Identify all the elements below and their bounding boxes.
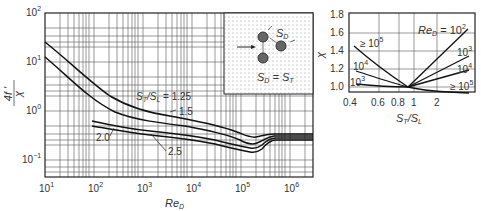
svg-text:2: 2	[434, 97, 440, 108]
svg-text:104: 104	[353, 59, 368, 72]
svg-text:102: 102	[88, 181, 103, 194]
label-1.25: ST/SL = 1.25	[136, 91, 192, 103]
svg-text:χ: χ	[12, 90, 24, 98]
svg-text:101: 101	[39, 181, 54, 194]
left-y-ticks: 102 101 100 10−1	[22, 5, 41, 165]
svg-text:102: 102	[26, 5, 41, 18]
right-chart: ReD = 102 103 104 ≥ 105 ≥ 105 104 103 1.…	[314, 9, 475, 125]
svg-text:103: 103	[350, 75, 365, 88]
right-y-ticks: 1.8 1.6 1.4 1.2 1.0	[330, 9, 344, 92]
svg-text:≥ 105: ≥ 105	[450, 79, 473, 92]
svg-text:≥ 105: ≥ 105	[360, 36, 383, 49]
svg-text:101: 101	[26, 54, 41, 67]
svg-text:10−1: 10−1	[22, 152, 41, 165]
tube-bank-inset: SD SD = ST	[224, 13, 313, 94]
svg-text:1.2: 1.2	[330, 63, 344, 74]
svg-text:105: 105	[235, 181, 250, 194]
svg-text:103: 103	[457, 45, 472, 58]
svg-text:0.4: 0.4	[343, 97, 357, 108]
label-2.5: 2.5	[168, 146, 182, 157]
svg-text:1: 1	[411, 97, 417, 108]
svg-text:103: 103	[137, 181, 152, 194]
svg-text:106: 106	[284, 181, 299, 194]
svg-text:1.0: 1.0	[330, 81, 344, 92]
tube-icon	[258, 53, 268, 63]
svg-text:100: 100	[26, 103, 41, 116]
svg-text:ReD = 102: ReD = 102	[418, 23, 466, 37]
right-x-ticks: 0.4 0.6 0.8 1 2	[343, 97, 440, 108]
svg-text:1.8: 1.8	[330, 9, 344, 20]
tube-icon	[258, 32, 268, 42]
label-1.5: 1.5	[179, 106, 193, 117]
figure: SD SD = ST ST/SL = 1.25 1.5 2.0 2.5 102 …	[0, 0, 481, 211]
right-y-label: χ	[314, 51, 326, 59]
svg-text:SD = ST: SD = ST	[257, 71, 294, 84]
right-x-label: ST/SL	[396, 112, 422, 125]
svg-text:1.6: 1.6	[330, 27, 344, 38]
svg-text:104: 104	[457, 62, 472, 75]
left-y-label: 4f ' χ	[2, 80, 24, 106]
svg-text:0.8: 0.8	[391, 97, 405, 108]
left-chart: SD SD = ST ST/SL = 1.25 1.5 2.0 2.5 102 …	[2, 5, 313, 210]
tube-icon	[276, 41, 286, 51]
svg-text:1.4: 1.4	[330, 45, 344, 56]
left-x-ticks: 101 102 103 104 105 106	[39, 181, 299, 194]
left-x-label: ReD	[165, 197, 184, 210]
label-2.0: 2.0	[96, 132, 110, 143]
svg-text:104: 104	[186, 181, 201, 194]
svg-text:0.6: 0.6	[371, 97, 385, 108]
